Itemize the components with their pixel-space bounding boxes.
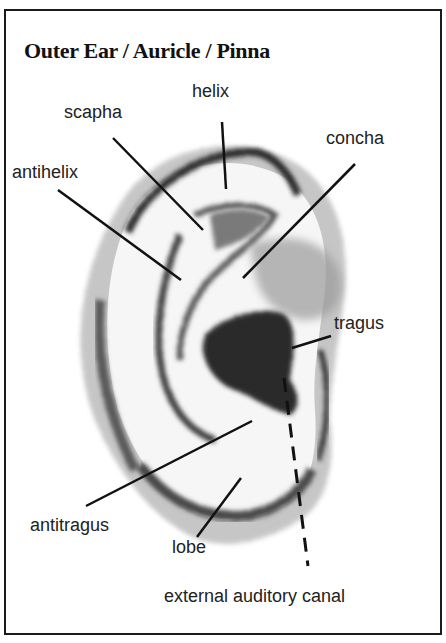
label-antihelix: antihelix: [12, 162, 78, 183]
label-helix: helix: [192, 81, 229, 102]
diagram-title: Outer Ear / Auricle / Pinna: [24, 38, 270, 64]
label-lobe: lobe: [172, 537, 206, 558]
label-scapha: scapha: [64, 102, 122, 123]
label-tragus: tragus: [334, 313, 384, 334]
label-external-auditory-canal: external auditory canal: [164, 586, 345, 607]
label-antitragus: antitragus: [30, 515, 109, 536]
label-concha: concha: [326, 128, 384, 149]
